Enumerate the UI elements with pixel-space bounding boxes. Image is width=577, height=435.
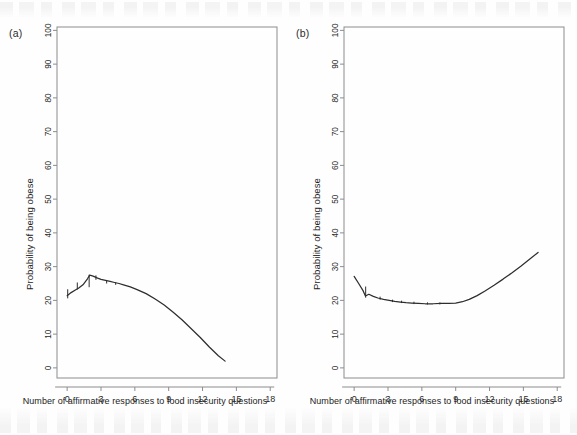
y-tick-label-a-10: 100	[44, 23, 53, 37]
y-tick-label-b-9: 90	[331, 59, 340, 69]
y-tick-label-a-0: 0	[44, 365, 53, 370]
x-axis-label-a: Number of affirmative responses to food …	[0, 396, 290, 406]
y-tick-label-a-4: 40	[44, 228, 53, 238]
chart-panel-b: (b) Probability of being obese Number of…	[287, 0, 577, 435]
y-tick-label-b-10: 100	[331, 23, 340, 37]
data-line-b-0	[354, 252, 538, 303]
panel-label-a: (a)	[9, 28, 22, 39]
y-tick-label-b-5: 50	[331, 194, 340, 204]
y-tick-label-a-7: 70	[44, 127, 53, 137]
y-tick-label-a-2: 20	[44, 295, 53, 305]
plot-area-b: 01020304050607080901000369121518	[287, 0, 577, 395]
y-axis-label-b: Probability of being obese	[311, 178, 322, 290]
y-tick-label-a-3: 30	[44, 262, 53, 272]
y-tick-label-a-9: 90	[44, 59, 53, 69]
figure-page: (a) Probability of being obese Number of…	[0, 0, 577, 435]
y-tick-label-b-8: 80	[331, 93, 340, 103]
chart-panel-a: (a) Probability of being obese Number of…	[0, 0, 290, 435]
x-axis-label-b: Number of affirmative responses to food …	[287, 396, 577, 406]
plot-area-a: 01020304050607080901000369121518	[0, 0, 290, 395]
y-tick-label-b-6: 60	[331, 160, 340, 170]
y-tick-label-b-2: 20	[331, 295, 340, 305]
y-tick-label-a-1: 10	[44, 329, 53, 339]
data-line-a-0	[67, 275, 225, 361]
y-tick-label-b-7: 70	[331, 127, 340, 137]
y-tick-label-b-3: 30	[331, 262, 340, 272]
panel-label-b: (b)	[296, 28, 309, 39]
y-tick-label-b-0: 0	[331, 365, 340, 370]
y-axis-label-a: Probability of being obese	[24, 178, 35, 290]
y-tick-label-b-1: 10	[331, 329, 340, 339]
y-tick-label-a-8: 80	[44, 93, 53, 103]
y-tick-label-a-6: 60	[44, 160, 53, 170]
y-tick-label-b-4: 40	[331, 228, 340, 238]
y-tick-label-a-5: 50	[44, 194, 53, 204]
